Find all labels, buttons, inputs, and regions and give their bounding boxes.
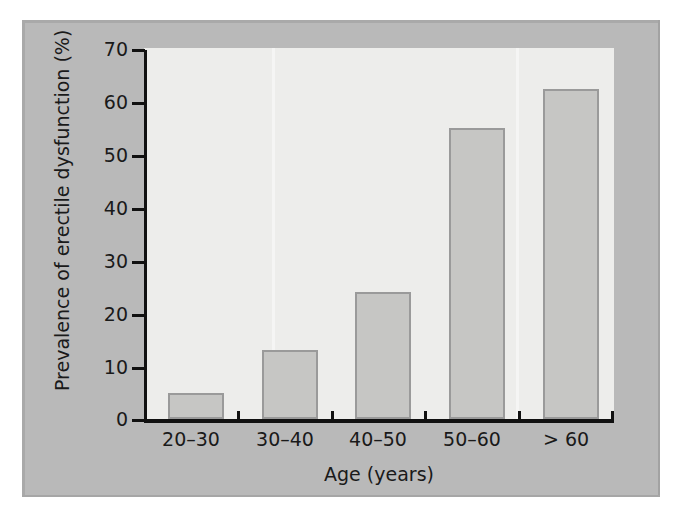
bar-30-40 xyxy=(262,350,318,419)
x-tick-4 xyxy=(518,411,521,421)
y-tick-30 xyxy=(132,261,145,264)
y-tick-40 xyxy=(132,208,145,211)
figure-panel: 70 60 50 40 30 20 10 0 xyxy=(22,20,660,497)
panel-edge-left xyxy=(22,20,25,497)
scan-band xyxy=(516,48,519,420)
y-tick-50 xyxy=(132,155,145,158)
x-tick-label-20-30: 20–30 xyxy=(144,430,238,449)
y-tick-label-20: 20 xyxy=(84,305,128,324)
bar-40-50 xyxy=(355,292,411,419)
bar-over-60 xyxy=(543,89,599,419)
y-tick-10 xyxy=(132,367,145,370)
y-tick-0 xyxy=(132,419,145,422)
x-tick-3 xyxy=(424,411,427,421)
y-tick-label-30: 30 xyxy=(84,252,128,271)
y-tick-label-70: 70 xyxy=(84,40,128,59)
x-axis-cap-right xyxy=(611,411,614,423)
panel-edge-top xyxy=(22,20,660,23)
x-tick-1 xyxy=(237,411,240,421)
y-tick-label-40: 40 xyxy=(84,199,128,218)
y-tick-70 xyxy=(132,49,145,52)
x-tick-label-50-60: 50–60 xyxy=(425,430,519,449)
y-tick-20 xyxy=(132,314,145,317)
y-axis-title: Prevalence of erectile dysfunction (%) xyxy=(51,51,73,391)
panel-edge-bottom xyxy=(22,495,660,497)
x-tick-label-30-40: 30–40 xyxy=(238,430,332,449)
y-tick-label-10: 10 xyxy=(84,358,128,377)
x-axis-title: Age (years) xyxy=(144,463,614,485)
bar-20-30 xyxy=(168,393,224,419)
panel-edge-right xyxy=(658,20,660,497)
bar-50-60 xyxy=(449,128,505,419)
x-axis-line xyxy=(144,419,614,423)
x-tick-label-over-60: > 60 xyxy=(519,430,613,449)
y-tick-label-50: 50 xyxy=(84,146,128,165)
x-tick-2 xyxy=(331,411,334,421)
y-tick-60 xyxy=(132,102,145,105)
y-tick-label-0: 0 xyxy=(84,410,128,429)
x-tick-label-40-50: 40–50 xyxy=(331,430,425,449)
y-tick-label-60: 60 xyxy=(84,93,128,112)
figure-root: 70 60 50 40 30 20 10 0 xyxy=(0,0,679,517)
